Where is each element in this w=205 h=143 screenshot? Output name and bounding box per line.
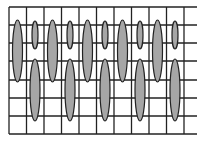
- ellipse-shape: [137, 21, 143, 49]
- ellipse-shape: [118, 20, 128, 82]
- ellipse-shape: [13, 20, 23, 82]
- ellipse-shape: [30, 59, 40, 121]
- ellipse-shape: [83, 20, 93, 82]
- ellipse-shape: [100, 59, 110, 121]
- ellipse-shape: [102, 21, 108, 49]
- ellipse-shape: [153, 20, 163, 82]
- ellipse-shape: [67, 21, 73, 49]
- ellipse-shape: [170, 59, 180, 121]
- ellipse-shape: [32, 21, 38, 49]
- ellipse-shape: [135, 59, 145, 121]
- ellipse-shape: [65, 59, 75, 121]
- grid-ellipse-diagram: [0, 0, 205, 143]
- ellipse-shape: [48, 20, 58, 82]
- ellipse-shape: [172, 21, 178, 49]
